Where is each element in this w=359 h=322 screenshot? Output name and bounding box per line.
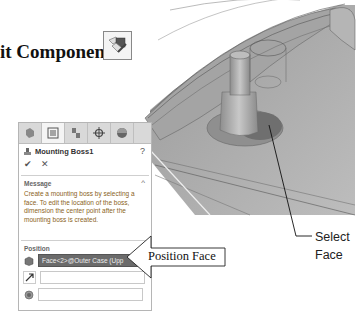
message-label: Message bbox=[24, 180, 149, 187]
position-section: Position Face<2>@Outer Case (Upp bbox=[21, 240, 149, 309]
property-list-icon bbox=[47, 127, 59, 139]
dimxpert-tab[interactable] bbox=[88, 123, 111, 143]
property-manager-panel: Mounting Boss1 ? ✔ ✕ Message ^ Create a … bbox=[18, 122, 152, 311]
circular-edge-field[interactable] bbox=[38, 288, 143, 301]
ok-button[interactable]: ✔ bbox=[24, 159, 32, 169]
direction-field[interactable] bbox=[40, 271, 145, 284]
propertymanager-tab[interactable] bbox=[42, 123, 65, 143]
message-section: Message ^ Create a mounting boss by sele… bbox=[21, 175, 149, 238]
configurationmanager-tab[interactable] bbox=[65, 123, 88, 143]
crosshair-icon bbox=[93, 127, 105, 139]
feature-title: Mounting Boss1 bbox=[23, 147, 93, 156]
feature-title-text: Mounting Boss1 bbox=[35, 147, 93, 156]
face-icon bbox=[23, 255, 34, 266]
appearance-sphere-icon bbox=[116, 127, 128, 139]
mounting-boss-icon bbox=[23, 147, 32, 156]
select-face-label: Select Face bbox=[315, 228, 355, 264]
circular-edge-row bbox=[23, 288, 143, 301]
cancel-button[interactable]: ✕ bbox=[41, 159, 49, 169]
featuremanager-tab[interactable] bbox=[19, 123, 42, 143]
edit-component-icon bbox=[103, 31, 132, 60]
collapse-chevron-icon[interactable]: ^ bbox=[141, 178, 145, 187]
configuration-icon bbox=[70, 127, 82, 139]
face-selection-field[interactable]: Face<2>@Outer Case (Upp bbox=[38, 254, 143, 267]
message-text: Create a mounting boss by selecting a fa… bbox=[24, 190, 145, 224]
position-label: Position bbox=[24, 245, 149, 252]
help-icon[interactable]: ? bbox=[140, 146, 145, 156]
direction-row bbox=[23, 271, 145, 284]
select-face-line1: Select bbox=[315, 228, 355, 246]
direction-arrow-icon[interactable] bbox=[23, 271, 36, 284]
select-face-line2: Face bbox=[315, 246, 355, 264]
section-heading: it Component bbox=[0, 41, 111, 63]
manager-tabs bbox=[19, 123, 151, 144]
display-manager-tab[interactable] bbox=[111, 123, 134, 143]
position-face-label: Position Face bbox=[148, 249, 216, 264]
face-selection-row: Face<2>@Outer Case (Upp bbox=[23, 254, 143, 267]
feature-tree-icon bbox=[24, 127, 36, 139]
circular-edge-icon bbox=[23, 289, 34, 300]
action-buttons: ✔ ✕ bbox=[24, 159, 49, 169]
